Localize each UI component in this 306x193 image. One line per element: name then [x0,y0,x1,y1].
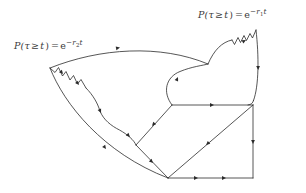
right-side-edge-path [254,30,259,101]
label-r1-P: P( [198,9,209,20]
arrow-left-outer-arc-icon [102,145,107,150]
label-r2-exponent: −r2t [66,38,83,47]
label-r2-P: P( [14,40,25,51]
arrow-box-top-edge-icon [210,103,214,107]
label-r1-exponent: −r1t [250,7,267,16]
survival-probability-label-r2: P(τ≥t)=e−r2t [14,40,83,51]
inner-rounded-blob-path [166,64,208,105]
right-rounded-corner-path [248,101,254,106]
arrow-box-bottom-edge-left-icon [194,176,198,180]
label-r1-equals: = [234,9,244,20]
right-scallop-arc-path [208,40,232,64]
label-r1-exponent-time: t [264,7,267,16]
arrow-box-right-edge-icon [251,140,255,144]
arrow-top-arc-icon [116,46,121,50]
diagonal-southeast-path [168,105,253,178]
label-r2-equals: = [50,40,60,51]
arrow-box-bottom-edge-right-icon [222,176,226,180]
top-smooth-arc-path [50,51,208,68]
label-r1-relation: ≥ [214,9,224,20]
label-r2-exponent-time: t [80,38,83,47]
survival-probability-label-r1: P(τ≥t)=e−r1t [198,9,267,20]
diagram-canvas [0,0,306,193]
causal-diagram-figure: P(τ≥t)=e−r1t P(τ≥t)=e−r2t [0,0,306,193]
arrow-marker-group [59,38,260,180]
arrow-left-scallop-mid-icon [98,109,103,114]
arrow-diagonal-northwest-icon [151,122,157,128]
arrow-right-side-edge-icon [256,66,260,70]
label-r2-relation: ≥ [30,40,40,51]
arrow-inner-blob-icon [175,76,180,81]
left-scallop-zigzag-path [50,68,86,89]
